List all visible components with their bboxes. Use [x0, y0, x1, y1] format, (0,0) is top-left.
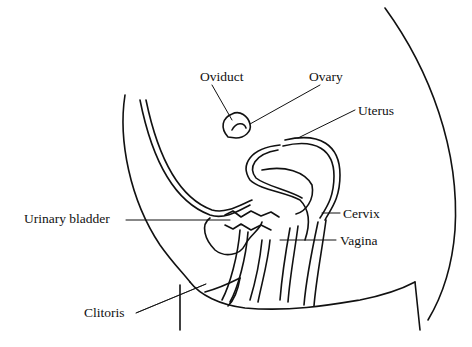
ovary-leader — [250, 85, 320, 124]
uterus-label: Uterus — [358, 104, 394, 118]
vagina-label: Vagina — [340, 234, 378, 248]
cervix-label: Cervix — [343, 207, 380, 221]
bladder-outline — [205, 218, 262, 255]
ovary-label: Ovary — [309, 70, 343, 84]
diagram-drawing — [0, 0, 472, 347]
anatomy-diagram: Oviduct Ovary Uterus Cervix Urinary blad… — [0, 0, 472, 347]
abdomen-contour — [123, 95, 190, 282]
back-contour — [385, 8, 456, 320]
clitoris-leader — [136, 284, 206, 313]
clitoris-label: Clitoris — [84, 306, 125, 320]
urinary-bladder-label: Urinary bladder — [24, 212, 110, 226]
oviduct-label: Oviduct — [200, 70, 244, 84]
uterus-outline — [246, 145, 308, 240]
oviduct-leader — [212, 85, 232, 120]
uterus-leader — [298, 110, 355, 138]
